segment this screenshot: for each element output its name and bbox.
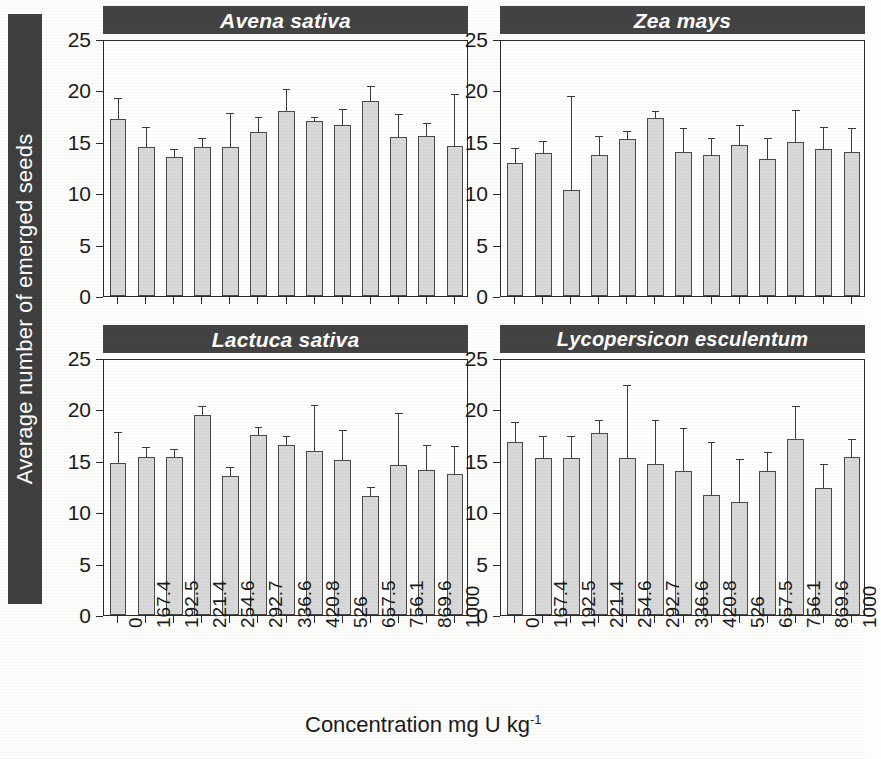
x-axis-tick-label: 336.6: [691, 580, 713, 628]
error-bar-stem: [599, 421, 600, 433]
error-bar-stem: [767, 453, 768, 472]
y-axis-tick-label: 0: [448, 605, 488, 626]
bar: [619, 139, 636, 296]
x-axis-tick-label: 292.7: [265, 580, 287, 628]
error-bar-cap: [311, 117, 319, 118]
y-axis-tick: [493, 297, 500, 298]
error-bar-stem: [767, 139, 768, 160]
bar: [703, 155, 720, 296]
x-axis-tick: [342, 297, 343, 304]
bar-slot: [585, 360, 613, 615]
error-bar-cap: [170, 449, 178, 450]
panel-title-text: Zea mays: [634, 10, 731, 31]
error-bar-cap: [567, 436, 575, 437]
error-bar-stem: [398, 414, 399, 465]
error-bar-cap: [226, 467, 234, 468]
x-axis-tick: [823, 297, 824, 304]
x-axis-tick: [257, 616, 258, 623]
bar: [306, 121, 323, 296]
bar-slot: [754, 41, 782, 296]
x-axis-title: Concentration mg U kg-1: [305, 712, 542, 738]
error-bar-stem: [795, 407, 796, 439]
bar-slot: [216, 41, 244, 296]
x-axis-tick: [739, 616, 740, 623]
error-bar-cap: [339, 430, 347, 431]
bar: [194, 147, 211, 296]
panel-title-2: Zea mays: [500, 6, 865, 34]
x-axis-tick: [229, 616, 230, 623]
bar-slot: [160, 41, 188, 296]
error-bar-stem: [599, 137, 600, 156]
error-bar-cap: [539, 436, 547, 437]
y-axis-tick-label: 20: [51, 399, 91, 420]
error-bar-cap: [395, 413, 403, 414]
error-bar-stem: [230, 114, 231, 147]
bar-slot: [782, 41, 810, 296]
error-bar-stem: [286, 90, 287, 111]
bar-slot: [810, 41, 838, 296]
bar-slot: [413, 360, 441, 615]
x-axis-tick: [514, 616, 515, 623]
x-axis-tick-label: 336.6: [294, 580, 316, 628]
error-bar-cap: [736, 125, 744, 126]
x-axis-tick: [398, 297, 399, 304]
bar: [535, 153, 552, 296]
plot-area-1: [103, 40, 468, 297]
bar-slot: [501, 41, 529, 296]
bar-slot: [698, 41, 726, 296]
bar: [759, 471, 776, 615]
bar-slot: [132, 41, 160, 296]
x-axis-tick: [257, 297, 258, 304]
x-axis-tick: [314, 297, 315, 304]
y-axis-tick: [96, 246, 103, 247]
y-axis-tick: [493, 462, 500, 463]
y-axis-tick: [96, 297, 103, 298]
y-axis-tick-label: 20: [448, 80, 488, 101]
bar-slot: [726, 360, 754, 615]
error-bar-cap: [736, 459, 744, 460]
x-axis-tick-label: 0: [522, 617, 544, 628]
x-axis-tick: [426, 616, 427, 623]
x-axis-tick: [201, 616, 202, 623]
bar-slot: [188, 41, 216, 296]
x-axis-tick-label: 420.8: [322, 580, 344, 628]
y-axis-tick: [96, 40, 103, 41]
bar-slot: [413, 41, 441, 296]
y-axis-tick-label: 0: [51, 286, 91, 307]
y-axis-tick: [96, 91, 103, 92]
error-bar-stem: [370, 488, 371, 496]
x-axis-tick: [426, 297, 427, 304]
error-bar-cap: [708, 138, 716, 139]
error-bar-cap: [283, 89, 291, 90]
bar: [250, 132, 267, 296]
error-bar-stem: [202, 407, 203, 414]
error-bar-cap: [226, 113, 234, 114]
panel-title-1: Avena sativa: [103, 6, 468, 34]
y-axis-tick-label: 5: [51, 235, 91, 256]
error-bar-cap: [595, 136, 603, 137]
x-axis-tick-label: 254.6: [237, 580, 259, 628]
error-bar-cap: [511, 422, 519, 423]
error-bar-cap: [451, 446, 459, 447]
error-bar-stem: [683, 129, 684, 152]
y-axis-tick-label: 25: [51, 29, 91, 50]
error-bar-stem: [202, 139, 203, 147]
x-axis-tick: [570, 297, 571, 304]
error-bar-stem: [258, 428, 259, 435]
error-bar-cap: [198, 138, 206, 139]
y-axis-tick-label: 0: [51, 605, 91, 626]
error-bar-stem: [627, 132, 628, 139]
bar: [563, 190, 580, 296]
error-bar-cap: [652, 111, 660, 112]
bar: [166, 157, 183, 296]
y-axis-tick: [493, 91, 500, 92]
x-axis-tick: [145, 297, 146, 304]
bar-slot: [726, 41, 754, 296]
y-axis-tick-label: 15: [448, 451, 488, 472]
error-bar-stem: [795, 111, 796, 142]
x-axis-tick-label: 167.4: [550, 580, 572, 628]
y-axis-tick-label: 20: [51, 80, 91, 101]
bar-slot: [557, 41, 585, 296]
x-axis-tick-label: 0: [125, 617, 147, 628]
error-bar-stem: [823, 128, 824, 149]
